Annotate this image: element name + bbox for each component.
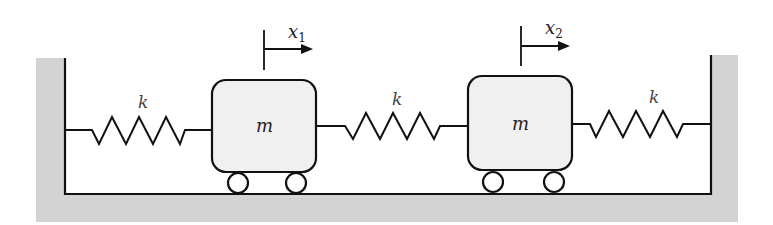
displacement-x1: x1 xyxy=(264,21,313,70)
mass-2-wheel-right xyxy=(544,172,564,192)
spring-3-label: k xyxy=(649,87,659,107)
mass-1-label: m xyxy=(256,115,273,136)
arrow-right-icon xyxy=(301,44,313,54)
ground-base xyxy=(36,55,738,222)
mass-1-wheel-right xyxy=(286,173,306,193)
spring-1: k xyxy=(65,92,212,144)
arrow-right-icon xyxy=(558,41,570,51)
displacement-x2: x2 xyxy=(521,17,570,66)
mass-1: m xyxy=(212,80,316,193)
mass-2-wheel-left xyxy=(483,172,503,192)
spring-3: k xyxy=(572,87,711,137)
mass-2-label: m xyxy=(512,113,529,134)
two-mass-spring-diagram: k k k m m x1 x2 xyxy=(0,0,773,225)
x1-label: x1 xyxy=(288,21,306,45)
spring-2: k xyxy=(316,89,468,139)
mass-2: m xyxy=(468,76,572,192)
mass-1-wheel-left xyxy=(228,173,248,193)
x2-label: x2 xyxy=(545,17,563,41)
spring-1-label: k xyxy=(138,92,148,112)
spring-2-label: k xyxy=(392,89,402,109)
